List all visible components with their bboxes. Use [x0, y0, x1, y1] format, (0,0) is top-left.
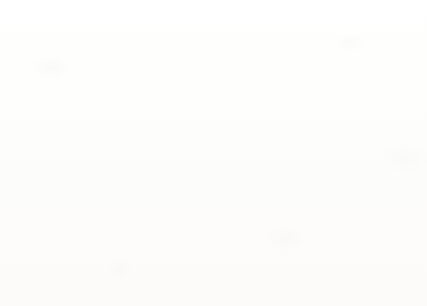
origin-point	[214, 157, 216, 159]
x-axis-line	[40, 156, 401, 160]
coordinate-axes-figure	[0, 0, 427, 306]
axes-drawing	[0, 0, 427, 306]
